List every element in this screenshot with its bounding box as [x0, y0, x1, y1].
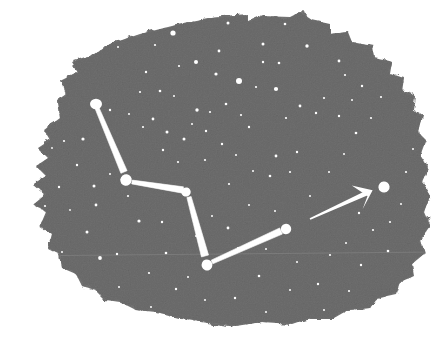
sky-canvas: [0, 0, 447, 345]
background-star: [61, 251, 63, 253]
background-star: [348, 290, 350, 292]
background-star: [76, 164, 78, 166]
background-star: [44, 205, 46, 207]
background-star: [305, 44, 308, 47]
background-star: [358, 212, 360, 214]
background-star: [328, 171, 330, 173]
background-star: [351, 99, 353, 101]
background-star: [218, 50, 221, 53]
background-star: [98, 256, 102, 260]
background-star: [109, 109, 111, 111]
background-star: [372, 229, 374, 231]
background-star: [118, 286, 120, 288]
background-star: [225, 103, 228, 106]
background-star: [139, 91, 141, 93]
background-star: [265, 248, 267, 250]
background-star: [387, 250, 390, 253]
background-star: [284, 23, 287, 26]
background-star: [296, 151, 298, 153]
background-star: [360, 264, 362, 266]
background-star: [248, 204, 250, 206]
background-star: [154, 44, 156, 46]
background-star: [278, 62, 281, 65]
background-star: [211, 215, 213, 217]
constellation-star-handle-end: [90, 99, 102, 109]
background-star: [255, 86, 257, 88]
sky-ground-grain: [34, 12, 430, 326]
background-star: [258, 275, 261, 278]
background-star: [285, 117, 287, 119]
background-star: [274, 210, 276, 212]
background-star: [228, 183, 230, 185]
background-star: [296, 261, 298, 263]
background-star: [329, 254, 331, 256]
background-star: [86, 231, 89, 234]
background-star: [412, 148, 414, 150]
background-star: [240, 114, 242, 116]
background-star: [275, 155, 278, 158]
background-star: [317, 283, 319, 285]
background-star: [142, 126, 144, 128]
background-star: [81, 137, 84, 140]
background-star: [205, 130, 207, 132]
background-star: [161, 221, 163, 223]
background-star: [127, 195, 129, 197]
background-star: [58, 186, 60, 188]
background-star: [63, 140, 65, 142]
background-star: [289, 289, 291, 291]
background-star: [252, 170, 254, 172]
background-star: [400, 203, 402, 205]
background-star: [221, 143, 223, 145]
background-star: [204, 299, 206, 301]
background-star: [355, 132, 358, 135]
background-star: [148, 272, 150, 274]
background-star: [345, 242, 347, 244]
background-star: [236, 78, 242, 84]
background-star: [323, 309, 325, 311]
background-star: [338, 60, 341, 63]
background-star: [234, 297, 236, 299]
background-star: [361, 85, 363, 87]
background-star: [137, 219, 140, 222]
background-star: [262, 43, 265, 46]
background-star: [145, 71, 147, 73]
background-star: [150, 306, 152, 308]
background-star: [262, 61, 264, 63]
background-star: [289, 171, 291, 173]
background-star: [173, 95, 175, 97]
background-star: [269, 175, 272, 178]
background-star: [95, 204, 98, 207]
background-star: [214, 72, 217, 75]
background-star: [344, 74, 346, 76]
background-star: [204, 159, 206, 161]
background-star: [165, 252, 168, 255]
background-star: [170, 30, 175, 35]
background-star: [177, 161, 179, 163]
background-star: [175, 288, 177, 290]
background-star: [380, 96, 382, 98]
background-star: [315, 112, 317, 114]
background-star: [109, 173, 111, 175]
background-star: [183, 138, 186, 141]
background-star: [227, 22, 230, 25]
background-star: [195, 108, 198, 111]
background-star: [309, 195, 311, 197]
background-star: [166, 131, 169, 134]
background-star: [265, 311, 267, 313]
background-star: [370, 117, 372, 119]
background-star: [227, 227, 230, 230]
background-star: [51, 147, 53, 149]
background-star: [405, 171, 407, 173]
background-star: [274, 87, 278, 91]
background-star: [248, 126, 250, 128]
background-star: [191, 123, 193, 125]
background-star: [128, 113, 130, 115]
background-star: [159, 90, 162, 93]
background-star: [152, 118, 155, 121]
star-chart-figure: [0, 0, 447, 345]
background-star: [209, 111, 211, 113]
background-star: [343, 153, 345, 155]
background-star: [178, 65, 180, 67]
background-star: [338, 115, 340, 117]
background-star: [93, 185, 96, 188]
